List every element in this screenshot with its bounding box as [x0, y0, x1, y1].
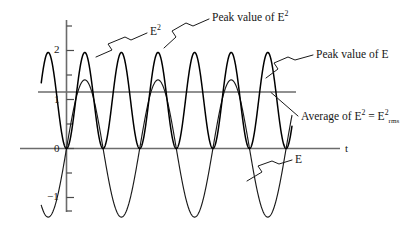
label-average-prefix: Average of E: [301, 110, 361, 122]
y-tick-label-0: 0: [54, 143, 60, 154]
label-peak-value-of-e-squared: Peak value of E2: [212, 12, 288, 24]
leader-peak-e-squared: [164, 19, 209, 48]
label-peak-value-of-e-squared-text: Peak value of E: [212, 11, 285, 23]
label-e-curve: E: [295, 154, 302, 166]
y-tick-label-1: 1: [54, 94, 60, 105]
rms-waveform-figure: 2 1 0 −1 t E2 Peak value of E2 Peak valu…: [0, 0, 415, 229]
label-e-squared-curve-text: E: [150, 25, 157, 37]
leader-average: [271, 93, 298, 117]
label-average-exponent-2: 2: [385, 108, 389, 117]
y-tick-label-2: 2: [54, 44, 60, 55]
label-e-squared-curve: E2: [150, 26, 161, 38]
label-average-of-e-squared: Average of E2 = E2rms: [301, 111, 399, 123]
label-peak-value-of-e: Peak value of E: [316, 49, 389, 61]
x-axis-label: t: [345, 143, 348, 154]
label-e-squared-curve-exponent: 2: [157, 23, 161, 32]
label-peak-value-of-e-squared-exponent: 2: [285, 9, 289, 18]
label-average-equals: = E: [365, 110, 384, 122]
curve-e-squared: [41, 52, 292, 148]
y-tick-label-minus-1: −1: [47, 191, 59, 202]
label-average-subscript-rms: rms: [389, 117, 400, 125]
leader-e-squared: [96, 33, 147, 57]
